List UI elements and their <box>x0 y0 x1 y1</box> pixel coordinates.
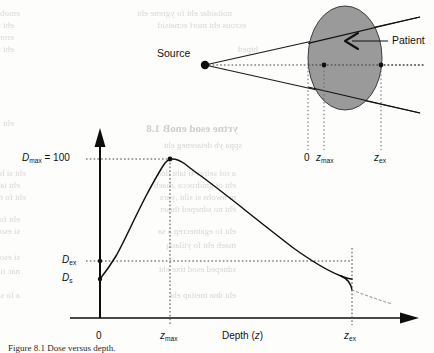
xtick-zmax-sub: max <box>165 335 177 342</box>
x-axis-arrowhead <box>400 313 419 324</box>
xtick-origin-text: 0 <box>96 330 102 341</box>
ds-marker <box>98 277 102 281</box>
xtick-zex: zex <box>344 330 356 341</box>
patient-label: Patient <box>392 34 425 46</box>
diagram-tick-entrance: 0 <box>304 152 310 163</box>
source-label: Source <box>157 47 190 59</box>
dex-marker <box>98 259 102 263</box>
depth-dose-plot <box>70 128 419 325</box>
dex-sub: ex <box>69 259 76 266</box>
figure-dose-versus-depth: emob ot elbissop si ti taht os eht ta dn… <box>0 0 434 353</box>
dmax-equals-value: = 100 <box>44 152 69 163</box>
dmax-axis-point <box>322 63 327 68</box>
dmax-peak-marker <box>168 157 173 162</box>
figure-caption: Figure 8.1 Dose versus depth. <box>8 343 116 353</box>
patient-ellipse <box>308 6 382 110</box>
dmax-sub: max <box>29 157 41 164</box>
y-axis-arrowhead <box>95 128 106 147</box>
curve-extension-dashed <box>352 290 392 304</box>
xtick-origin: 0 <box>96 330 102 341</box>
diagram-tick-entrance-text: 0 <box>304 152 310 163</box>
ds-label: Ds <box>62 272 73 283</box>
xtick-zmax: zmax <box>160 330 177 341</box>
diagram-tick-dmax: zmax <box>316 152 333 163</box>
dmax-value-label: Dmax = 100 <box>22 152 70 163</box>
source-point <box>201 61 209 69</box>
ds-sub: s <box>69 277 72 284</box>
figure-artwork <box>0 0 434 353</box>
diagram-tick-exit-sub: ex <box>379 157 386 164</box>
dex-label: Dex <box>62 254 76 265</box>
x-axis-title-text: Depth ( <box>222 330 255 341</box>
xtick-zex-sub: ex <box>349 335 356 342</box>
diagram-tick-dmax-sub: max <box>321 157 333 164</box>
exit-axis-point <box>379 63 384 68</box>
x-axis-title-close: ) <box>260 330 263 341</box>
diagram-tick-exit: zex <box>374 152 386 163</box>
x-axis-title: Depth (z) <box>222 330 263 341</box>
beam-geometry-diagram <box>201 6 424 150</box>
figure-caption-text: Figure 8.1 Dose versus depth. <box>8 343 116 353</box>
